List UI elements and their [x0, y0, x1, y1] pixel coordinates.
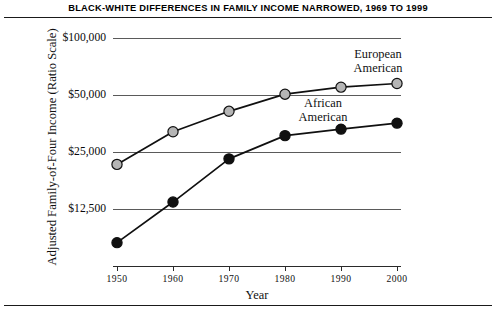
data-point-european-american-1990 [336, 82, 346, 92]
data-point-african-american-1990 [336, 124, 346, 134]
data-point-european-american-2000 [392, 78, 402, 88]
y-tick-label-25000: $25,000 [42, 145, 106, 158]
series-label-african-line1: African [275, 96, 371, 110]
x-tick-2000 [397, 266, 398, 271]
series-label-european-american: European American [330, 47, 426, 75]
x-tick-1970 [229, 266, 230, 271]
markers-african-american [112, 118, 402, 248]
data-point-african-american-1980 [280, 131, 290, 141]
x-tick-1950 [117, 266, 118, 271]
x-tick-1980 [285, 266, 286, 271]
gridline-100000 [113, 38, 401, 39]
plot-area: $100,000 $50,000 $25,000 $12,500 Europea… [0, 0, 496, 313]
data-point-african-american-2000 [392, 118, 402, 128]
data-point-european-american-1960 [168, 127, 178, 137]
y-tick-label-12500: $12,500 [42, 202, 106, 215]
series-label-african-line2: American [275, 110, 371, 124]
data-point-african-american-1960 [168, 197, 178, 207]
line-african-american [117, 123, 397, 243]
data-point-african-american-1950 [112, 238, 122, 248]
series-label-european-line2: American [330, 61, 426, 75]
data-point-european-american-1950 [112, 159, 122, 169]
data-point-african-american-1970 [224, 154, 234, 164]
x-tick-label-1970: 1970 [206, 273, 252, 284]
series-label-european-line1: European [330, 47, 426, 61]
chart-figure: BLACK-WHITE DIFFERENCES IN FAMILY INCOME… [0, 0, 496, 313]
x-axis-line [113, 266, 401, 267]
y-tick-label-100000: $100,000 [42, 31, 106, 44]
data-point-european-american-1970 [224, 106, 234, 116]
gridline-12500 [113, 209, 401, 210]
y-tick-label-50000: $50,000 [42, 88, 106, 101]
x-tick-label-2000: 2000 [374, 273, 420, 284]
x-axis-title: Year [113, 288, 401, 303]
x-tick-label-1990: 1990 [318, 273, 364, 284]
footer-divider-rule [4, 305, 492, 306]
x-tick-1990 [341, 266, 342, 271]
x-tick-label-1980: 1980 [262, 273, 308, 284]
x-tick-label-1960: 1960 [150, 273, 196, 284]
x-tick-1960 [173, 266, 174, 271]
series-label-african-american: African American [275, 96, 371, 124]
gridline-25000 [113, 152, 401, 153]
x-tick-label-1950: 1950 [94, 273, 140, 284]
